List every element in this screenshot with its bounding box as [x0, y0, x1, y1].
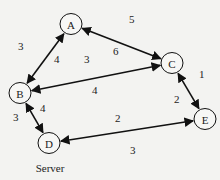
node-label: D: [45, 138, 53, 150]
edge-weight-label: 3: [18, 40, 24, 52]
edge-weight-label: 1: [199, 68, 205, 80]
edge-weight-label: 5: [129, 13, 135, 25]
edge-weight-label: 3: [130, 144, 136, 156]
node-d: D: [38, 133, 60, 154]
edge-weight-label: 3: [13, 111, 19, 123]
edge-weight-label: 2: [174, 93, 180, 105]
edge-weight-label: 4: [40, 102, 46, 114]
edge-d-e: [61, 121, 193, 141]
node-e: E: [194, 109, 216, 130]
edge-weight-label: 4: [54, 53, 60, 65]
node-label: C: [168, 58, 175, 70]
node-b: B: [9, 83, 31, 104]
edge-c-e: [178, 73, 199, 108]
node-a: A: [60, 14, 82, 35]
edge-a-c: [82, 28, 161, 58]
edge-weight-label: 3: [84, 53, 90, 65]
node-c: C: [161, 53, 183, 74]
edge-weight-label: 6: [113, 45, 119, 57]
node-label: E: [202, 114, 209, 126]
server-caption: Server: [36, 162, 65, 174]
edge-weight-label: 4: [92, 84, 98, 96]
node-label: A: [67, 19, 75, 31]
edge-weight-label: 2: [115, 112, 121, 124]
network-diagram: ABCDE 354364341223 Server: [0, 0, 220, 180]
node-label: B: [16, 88, 23, 100]
